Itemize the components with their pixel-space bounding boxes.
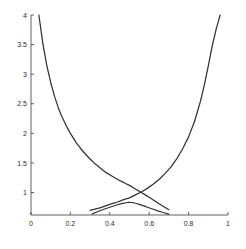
y-tick-label: 1 (23, 189, 27, 196)
increasing-curve (90, 15, 220, 210)
y-tick-label: 4 (23, 12, 27, 19)
data-curves (39, 15, 220, 214)
y-axis-tick-labels: 11.522.533.54 (17, 12, 27, 197)
low-hump-curve (92, 202, 169, 214)
x-tick-label: 0.2 (66, 220, 76, 227)
x-tick-label: 0.8 (184, 220, 194, 227)
y-tick-label: 2.5 (17, 100, 27, 107)
y-tick-label: 1.5 (17, 160, 27, 167)
y-tick-label: 3.5 (17, 41, 27, 48)
decreasing-curve (39, 15, 169, 210)
x-tick-label: 0 (29, 220, 33, 227)
x-axis-tick-labels: 00.20.40.60.81 (29, 220, 230, 227)
chart-figure: 11.522.533.54 00.20.40.60.81 (0, 0, 246, 249)
y-tick-label: 3 (23, 71, 27, 78)
line-chart: 11.522.533.54 00.20.40.60.81 (0, 0, 246, 249)
x-tick-label: 1 (226, 220, 230, 227)
x-tick-label: 0.6 (144, 220, 154, 227)
x-tick-label: 0.4 (105, 220, 115, 227)
y-tick-label: 2 (23, 130, 27, 137)
